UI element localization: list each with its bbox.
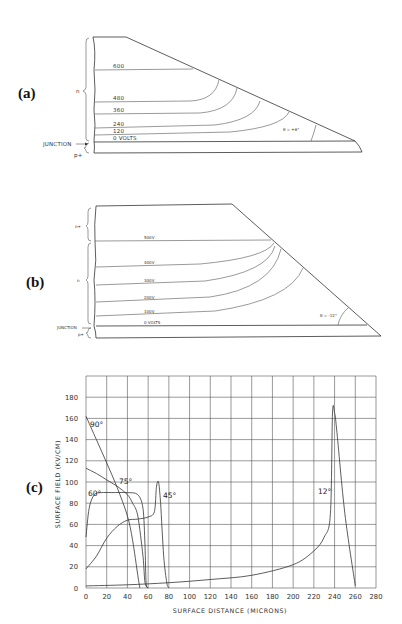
label-480: 480	[113, 95, 124, 101]
panel-b-label: (b)	[26, 274, 44, 291]
region-p-b: p+	[78, 332, 84, 337]
y-axis-label: SURFACE FIELD (KV/CM)	[54, 440, 61, 528]
y-tick: 100	[65, 479, 78, 487]
y-tick: 20	[69, 563, 78, 571]
left-edge-a	[93, 37, 95, 153]
label-400v: 400V	[144, 260, 155, 265]
curve-12deg	[86, 405, 355, 586]
label-0-volts-b: 0 VOLTS	[144, 320, 161, 325]
panel-c-label: (c)	[26, 479, 43, 496]
region-nplus-b: n+	[75, 224, 81, 229]
y-tick: 140	[65, 436, 78, 444]
x-tick: 60	[144, 593, 153, 601]
x-tick: 180	[266, 593, 279, 601]
region-p-a: p+	[74, 152, 83, 159]
label-120: 120	[113, 128, 124, 134]
panel-a-label: (a)	[18, 85, 36, 102]
y-tick: 0	[74, 585, 78, 593]
x-tick: 40	[123, 593, 132, 601]
equipotential-100v	[96, 268, 303, 316]
x-tick: 200	[287, 593, 300, 601]
label-300v: 300V	[144, 278, 155, 283]
angle-arc-b	[338, 308, 348, 325]
x-tick: 100	[183, 593, 196, 601]
y-tick: 120	[65, 457, 78, 465]
x-tick: 120	[204, 593, 217, 601]
x-tick: 0	[84, 593, 88, 601]
angle-label-b: θ = -12°	[320, 313, 337, 318]
x-tick: 280	[370, 593, 383, 601]
label-200v: 200V	[144, 295, 155, 300]
equipotential-200v	[96, 249, 281, 302]
label-600: 600	[113, 63, 124, 69]
panel-c: (c) 020406080100120140160180200220240260…	[26, 376, 382, 614]
brace-n-a	[83, 38, 89, 141]
x-tick: 80	[165, 593, 174, 601]
chart-curves	[86, 405, 355, 588]
curve-75deg	[86, 468, 148, 588]
x-tick: 220	[307, 593, 320, 601]
x-tick: 260	[349, 593, 362, 601]
label-45deg: 45°	[163, 491, 177, 500]
junction-line-a	[94, 141, 355, 142]
junction-line-b	[96, 325, 367, 326]
brace-nplus-b	[86, 208, 91, 241]
region-n-a: n	[76, 88, 80, 94]
label-360: 360	[113, 107, 124, 113]
region-n-b: n	[77, 278, 80, 283]
x-tick: 140	[225, 593, 238, 601]
junction-label-a: JUNCTION	[42, 141, 72, 148]
panel-a: (a) 600 480 360 240 120 0 VOLTS θ = +6° …	[18, 37, 362, 159]
figure: (a) 600 480 360 240 120 0 VOLTS θ = +6° …	[0, 0, 402, 624]
curve-60deg	[86, 492, 148, 588]
equipotential-400v	[96, 243, 274, 267]
label-90deg: 90°	[90, 420, 104, 429]
x-tick: 160	[245, 593, 258, 601]
angle-label-a: θ = +6°	[283, 127, 299, 132]
left-edge-b	[94, 206, 96, 338]
label-12deg: 12°	[318, 487, 332, 496]
y-tick: 80	[69, 500, 78, 508]
label-100v: 100V	[144, 309, 155, 314]
y-tick: 160	[65, 415, 78, 423]
label-60deg: 60°	[88, 489, 102, 498]
y-tick: 180	[65, 394, 78, 402]
brace-n-b	[86, 243, 91, 324]
equipotential-300v	[96, 246, 275, 285]
label-240: 240	[113, 121, 124, 127]
junction-label-b: JUNCTION	[56, 325, 77, 330]
label-75deg: 75°	[119, 477, 133, 486]
y-tick-labels: 020406080100120140160180	[65, 394, 78, 593]
label-500v: 500V	[144, 235, 155, 240]
equipotential-500v	[95, 240, 271, 241]
label-0-volts: 0 VOLTS	[113, 135, 137, 141]
x-tick: 20	[102, 593, 111, 601]
y-tick: 60	[69, 521, 78, 529]
x-tick: 240	[328, 593, 341, 601]
equipotential-600	[95, 69, 193, 70]
panel-b: (b) 500V 400V 300V 200V 100V 0 VOLTS θ =…	[26, 204, 381, 338]
angle-arc-a	[311, 125, 316, 141]
y-tick: 40	[69, 542, 78, 550]
mesa-outline-b	[96, 204, 381, 338]
x-axis-label: SURFACE DISTANCE (MICRONS)	[173, 607, 287, 614]
brace-p-b	[86, 328, 91, 338]
x-tick-labels: 020406080100120140160180200220240260280	[84, 593, 383, 601]
